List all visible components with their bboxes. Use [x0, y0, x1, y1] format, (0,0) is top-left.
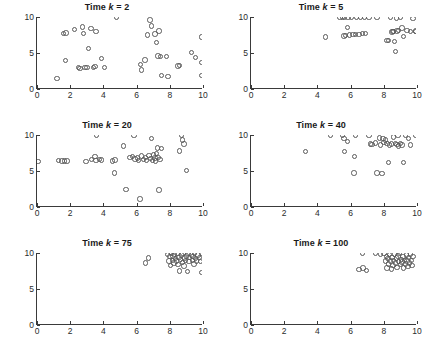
data-point-marker — [388, 17, 393, 20]
x-tick — [417, 85, 418, 88]
x-tick-label: 10 — [412, 90, 421, 100]
data-point-marker — [386, 38, 391, 43]
x-tick-label: 4 — [315, 208, 320, 218]
data-point-marker — [99, 56, 104, 61]
scatter-panel-k-40: Time k = 4005100246810 — [214, 118, 428, 236]
data-point-marker — [92, 64, 97, 69]
data-point-marker — [154, 40, 159, 45]
x-tick-label: 0 — [35, 326, 40, 336]
data-point-marker — [351, 170, 356, 175]
x-tick-label: 6 — [348, 90, 353, 100]
title-suffix: = 20 — [111, 120, 132, 130]
y-tick-label: 10 — [239, 12, 248, 22]
x-tick-label: 8 — [381, 326, 386, 336]
data-point-marker — [80, 24, 85, 29]
x-tick-label: 6 — [134, 90, 139, 100]
data-point-marker — [159, 146, 164, 151]
data-point-marker — [156, 187, 161, 192]
y-tick-label: 0 — [243, 84, 248, 94]
x-tick-label: 4 — [315, 90, 320, 100]
y-tick-label: 10 — [25, 130, 34, 140]
scatter-panel-k-100: Time k = 10005100246810 — [214, 236, 428, 354]
x-tick — [203, 321, 204, 324]
data-point-marker — [165, 74, 170, 79]
plot-area-k-20 — [37, 135, 202, 206]
y-tick-label: 5 — [29, 166, 34, 176]
title-prefix: Time — [299, 2, 323, 12]
x-tick-label: 10 — [198, 90, 207, 100]
data-point-marker — [395, 135, 400, 138]
data-point-marker — [413, 135, 416, 138]
x-tick-label: 10 — [412, 208, 421, 218]
scatter-panel-k-5: Time k = 505100246810 — [214, 0, 428, 118]
data-point-marker — [399, 142, 404, 147]
axes-k-75: 05100246810 — [36, 253, 202, 325]
data-point-marker — [112, 157, 117, 162]
x-tick-label: 2 — [68, 326, 73, 336]
data-point-marker — [145, 32, 150, 37]
data-point-marker — [366, 17, 371, 20]
plot-area-k-2 — [37, 17, 202, 88]
x-tick — [203, 85, 204, 88]
data-point-marker — [147, 17, 152, 22]
title-suffix: = 100 — [323, 238, 349, 248]
x-tick-label: 0 — [249, 208, 254, 218]
data-point-marker — [353, 135, 358, 138]
data-point-marker — [63, 30, 68, 35]
data-point-marker — [379, 171, 384, 176]
plot-area-k-5 — [251, 17, 416, 88]
data-point-marker — [198, 259, 202, 264]
data-point-marker — [345, 139, 350, 144]
data-point-marker — [146, 255, 151, 260]
data-point-marker — [93, 29, 98, 34]
data-point-marker — [303, 149, 308, 154]
data-point-marker — [159, 73, 164, 78]
data-point-marker — [86, 46, 91, 51]
x-tick-label: 0 — [249, 90, 254, 100]
x-tick — [417, 203, 418, 206]
data-point-marker — [181, 141, 186, 146]
data-point-marker — [342, 149, 347, 154]
scatter-panel-k-20: Time k = 2005100246810 — [0, 118, 214, 236]
data-point-marker — [352, 154, 357, 159]
y-tick-label: 5 — [243, 166, 248, 176]
data-point-marker — [137, 196, 142, 201]
data-point-marker — [199, 60, 202, 65]
panel-title-k-5: Time k = 5 — [214, 2, 428, 12]
data-point-marker — [177, 63, 182, 68]
data-point-marker — [81, 31, 86, 36]
data-point-marker — [94, 135, 99, 138]
data-point-marker — [158, 54, 163, 59]
x-tick-label: 2 — [68, 208, 73, 218]
x-tick-label: 10 — [412, 326, 421, 336]
y-tick-label: 5 — [243, 48, 248, 58]
data-point-marker — [143, 260, 148, 265]
x-tick-label: 0 — [35, 90, 40, 100]
data-point-marker — [393, 49, 398, 54]
data-point-marker — [54, 76, 59, 81]
scatter-panel-k-2: Time k = 205100246810 — [0, 0, 214, 118]
x-tick-label: 4 — [101, 326, 106, 336]
x-tick-label: 2 — [68, 90, 73, 100]
y-tick-label: 5 — [29, 284, 34, 294]
data-point-marker — [156, 28, 161, 33]
data-point-marker — [410, 17, 415, 21]
data-point-marker — [177, 148, 182, 153]
title-prefix: Time — [82, 238, 106, 248]
data-point-marker — [184, 168, 189, 173]
data-point-marker — [345, 25, 350, 30]
data-point-marker — [364, 268, 369, 273]
axes-k-20: 05100246810 — [36, 135, 202, 207]
figure-container: Time k = 205100246810Time k = 5051002468… — [0, 0, 428, 356]
y-tick-label: 10 — [239, 130, 248, 140]
x-tick — [203, 203, 204, 206]
y-tick-label: 10 — [239, 248, 248, 258]
data-point-marker — [374, 17, 379, 20]
data-point-marker — [121, 143, 126, 148]
data-point-marker — [360, 253, 365, 256]
x-tick-label: 6 — [134, 208, 139, 218]
data-point-marker — [63, 58, 68, 63]
data-point-marker — [408, 142, 413, 147]
data-point-marker — [406, 136, 411, 141]
data-point-marker — [410, 254, 415, 259]
